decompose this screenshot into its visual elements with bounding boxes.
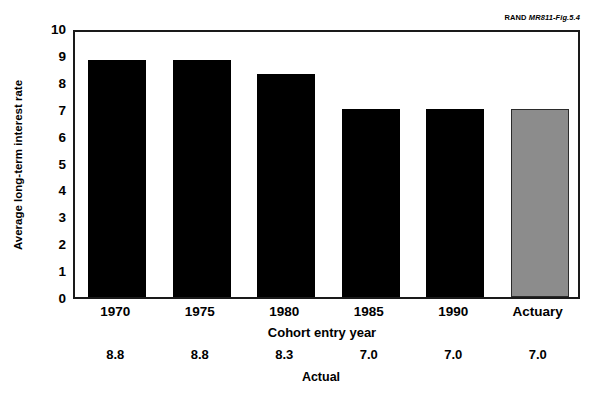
value-label-actuary: 7.0: [493, 348, 583, 361]
y-tick-label: 5: [36, 158, 66, 172]
value-label-1970: 8.8: [70, 348, 160, 361]
y-tick-label: 0: [36, 292, 66, 306]
value-row-label: Actual: [0, 370, 598, 384]
y-tick-label: 10: [36, 23, 66, 37]
y-tick-label: 2: [36, 238, 66, 252]
y-tick-label: 6: [36, 131, 66, 145]
y-tick-label: 7: [36, 104, 66, 118]
value-label-1990: 7.0: [408, 348, 498, 361]
x-tick-label-1975: 1975: [155, 305, 245, 319]
x-tick-label-1980: 1980: [239, 305, 329, 319]
bar-1970[interactable]: [88, 60, 146, 297]
value-label-1980: 8.3: [239, 348, 329, 361]
value-label-1975: 8.8: [155, 348, 245, 361]
bar-1990[interactable]: [426, 109, 484, 297]
x-axis-title: Cohort entry year: [0, 325, 598, 340]
bar-1980[interactable]: [257, 74, 315, 297]
bar-1975[interactable]: [173, 60, 231, 297]
bar-actuary[interactable]: [511, 109, 569, 297]
value-label-1985: 7.0: [324, 348, 414, 361]
y-tick-label: 1: [36, 265, 66, 279]
x-tick-label-1990: 1990: [408, 305, 498, 319]
y-tick-label: 9: [36, 50, 66, 64]
plot-area: [73, 30, 580, 299]
y-tick-label: 8: [36, 77, 66, 91]
x-axis-title-label: Cohort entry year: [222, 325, 376, 340]
x-tick-label-1970: 1970: [70, 305, 160, 319]
y-tick-label: 3: [36, 211, 66, 225]
x-tick-label-actuary: Actuary: [493, 305, 583, 319]
value-row-label-text: Actual: [258, 370, 340, 384]
bar-1985[interactable]: [342, 109, 400, 297]
x-tick-label-1985: 1985: [324, 305, 414, 319]
y-tick-label: 4: [36, 184, 66, 198]
